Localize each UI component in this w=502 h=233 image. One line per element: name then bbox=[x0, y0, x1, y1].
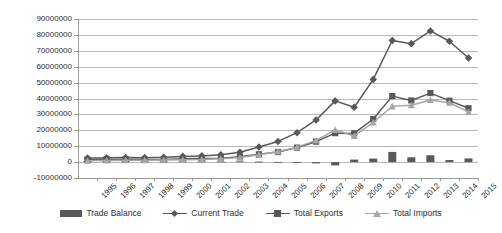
y-axis-tick-label: 50000000 bbox=[0, 79, 72, 87]
x-axis-tick-label: 1995 bbox=[100, 182, 118, 200]
x-axis-tick-mark bbox=[192, 178, 193, 181]
gridline bbox=[78, 67, 478, 68]
gridline bbox=[78, 114, 478, 115]
x-axis-tick-mark bbox=[421, 178, 422, 181]
gridline bbox=[78, 146, 478, 147]
x-axis-tick-mark bbox=[135, 178, 136, 181]
x-axis-tick-mark bbox=[97, 178, 98, 181]
gridline bbox=[78, 19, 478, 20]
x-axis-tick-mark bbox=[154, 178, 155, 181]
y-axis-tick-label: 10000000 bbox=[0, 142, 72, 150]
x-axis-tick-mark bbox=[249, 178, 250, 181]
gridline bbox=[78, 162, 478, 163]
x-axis-tick-label: 2013 bbox=[443, 182, 461, 200]
x-axis-tick-mark bbox=[268, 178, 269, 181]
x-axis-tick-label: 1999 bbox=[176, 182, 194, 200]
x-axis-tick-label: 2001 bbox=[214, 182, 232, 200]
y-axis-tick-label: -10000000 bbox=[0, 174, 72, 182]
x-axis-tick-mark bbox=[326, 178, 327, 181]
x-axis-tick-label: 2000 bbox=[195, 182, 213, 200]
x-axis-tick-mark bbox=[288, 178, 289, 181]
x-axis-tick-label: 2005 bbox=[290, 182, 308, 200]
x-axis-tick-mark bbox=[478, 178, 479, 181]
gridline bbox=[78, 130, 478, 131]
y-axis-tick-label: 70000000 bbox=[0, 47, 72, 55]
gridline bbox=[78, 35, 478, 36]
y-axis-tick-label: 60000000 bbox=[0, 63, 72, 71]
chart-legend: Trade BalanceCurrent TradeTotal ExportsT… bbox=[0, 203, 502, 223]
x-axis-tick-mark bbox=[440, 178, 441, 181]
legend-item[interactable]: Total Exports bbox=[266, 209, 343, 218]
legend-label: Total Exports bbox=[294, 209, 343, 218]
x-axis-tick-label: 2011 bbox=[404, 182, 422, 200]
y-axis-line bbox=[78, 19, 79, 179]
combo-chart: 9000000080000000700000006000000050000000… bbox=[0, 0, 502, 233]
y-axis-tick-label: 80000000 bbox=[0, 31, 72, 39]
x-axis-tick-label: 2014 bbox=[462, 182, 480, 200]
x-axis-tick-label: 2006 bbox=[309, 182, 327, 200]
legend-item[interactable]: Total Imports bbox=[365, 209, 442, 218]
x-axis-tick-label: 2008 bbox=[347, 182, 365, 200]
x-axis-tick-label: 2015 bbox=[481, 182, 499, 200]
x-axis-tick-mark bbox=[383, 178, 384, 181]
x-axis-tick-label: 2002 bbox=[233, 182, 251, 200]
legend-item[interactable]: Trade Balance bbox=[60, 209, 141, 218]
legend-line-swatch-icon bbox=[163, 209, 187, 218]
x-axis-line bbox=[78, 178, 478, 179]
gridline bbox=[78, 99, 478, 100]
gridline bbox=[78, 51, 478, 52]
x-axis-tick-label: 2012 bbox=[424, 182, 442, 200]
x-axis-tick-mark bbox=[211, 178, 212, 181]
x-axis-tick-mark bbox=[402, 178, 403, 181]
plot-area bbox=[78, 19, 478, 178]
x-axis-tick-label: 1996 bbox=[119, 182, 137, 200]
x-axis-tick-label: 2007 bbox=[328, 182, 346, 200]
x-axis-tick-label: 1997 bbox=[138, 182, 156, 200]
y-axis-tick-label: 40000000 bbox=[0, 95, 72, 103]
x-axis-tick-mark bbox=[116, 178, 117, 181]
x-axis-tick-label: 2010 bbox=[385, 182, 403, 200]
legend-item[interactable]: Current Trade bbox=[163, 209, 243, 218]
x-axis-tick-mark bbox=[230, 178, 231, 181]
legend-label: Trade Balance bbox=[86, 209, 141, 218]
x-axis-tick-mark bbox=[345, 178, 346, 181]
x-axis-tick-mark bbox=[364, 178, 365, 181]
gridline bbox=[78, 83, 478, 84]
legend-label: Total Imports bbox=[393, 209, 442, 218]
y-axis-tick-label: 90000000 bbox=[0, 15, 72, 23]
y-axis-tick-label: 20000000 bbox=[0, 126, 72, 134]
x-axis-tick-label: 2004 bbox=[271, 182, 289, 200]
x-axis-tick-mark bbox=[173, 178, 174, 181]
y-axis-tick-label: 0 bbox=[0, 158, 72, 166]
x-axis-tick-mark bbox=[307, 178, 308, 181]
x-axis-tick-label: 1998 bbox=[157, 182, 175, 200]
legend-line-swatch-icon bbox=[266, 209, 290, 218]
legend-bar-swatch-icon bbox=[60, 210, 82, 217]
legend-label: Current Trade bbox=[191, 209, 243, 218]
y-axis-tick-label: 30000000 bbox=[0, 110, 72, 118]
x-axis-tick-label: 2009 bbox=[366, 182, 384, 200]
x-axis-tick-label: 2003 bbox=[252, 182, 270, 200]
x-axis-tick-mark bbox=[459, 178, 460, 181]
legend-line-swatch-icon bbox=[365, 209, 389, 218]
